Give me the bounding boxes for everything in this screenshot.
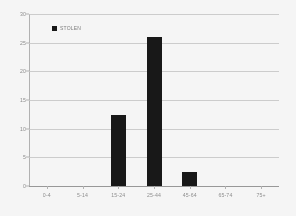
bar-45-64 [182, 172, 197, 186]
bar-series-stolen [29, 14, 279, 186]
x-tick-mark-15-24 [118, 186, 119, 189]
x-tick-mark-45-64 [190, 186, 191, 189]
x-tick-label-15-24: 15-24 [111, 192, 125, 198]
x-tick-label-65-74: 65-74 [218, 192, 232, 198]
x-tick-mark-25-44 [154, 186, 155, 189]
x-tick-label-75+: 75+ [257, 192, 266, 198]
legend-label-stolen: STOLEN [60, 25, 81, 31]
bar-chart: 051015202530 0-45-1415-2425-4445-6465-74… [0, 0, 296, 216]
x-tick-label-0-4: 0-4 [43, 192, 51, 198]
x-tick-mark-5-14 [83, 186, 84, 189]
bar-25-44 [147, 37, 162, 186]
x-tick-mark-75+ [261, 186, 262, 189]
chart-legend: STOLEN [52, 25, 81, 31]
plot-area: 051015202530 0-45-1415-2425-4445-6465-74… [29, 14, 279, 186]
x-tick-mark-0-4 [47, 186, 48, 189]
x-tick-label-25-44: 25-44 [147, 192, 161, 198]
x-tick-mark-65-74 [225, 186, 226, 189]
bar-15-24 [111, 115, 126, 186]
x-tick-label-45-64: 45-64 [183, 192, 197, 198]
x-tick-label-5-14: 5-14 [77, 192, 88, 198]
legend-swatch-icon [52, 26, 57, 31]
